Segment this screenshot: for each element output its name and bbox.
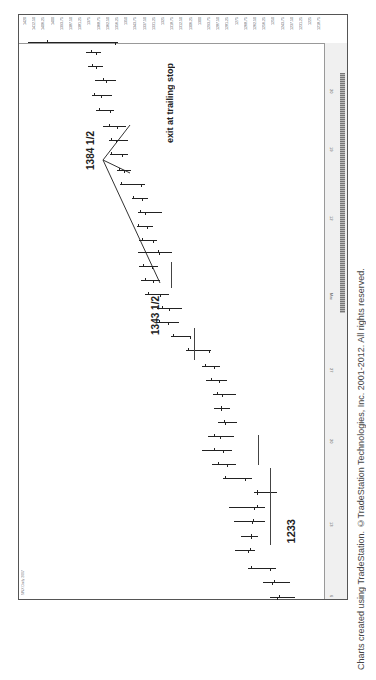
open-tick xyxy=(250,548,251,551)
price-tick-label: 1256.25 xyxy=(262,17,266,30)
chart-annotation: 1233 xyxy=(285,519,297,543)
date-axis: 6132027Mar121920 xyxy=(324,43,347,599)
close-tick xyxy=(153,280,154,283)
credit-line: Charts created using TradeStation. ©Trad… xyxy=(356,210,366,670)
open-tick xyxy=(225,476,226,479)
ohlc-bar xyxy=(218,422,237,423)
close-tick xyxy=(117,126,118,129)
close-tick xyxy=(227,464,228,467)
date-tick-label: 13 xyxy=(329,522,334,526)
close-tick xyxy=(116,140,117,143)
reference-line xyxy=(258,435,259,465)
close-tick xyxy=(220,436,221,439)
open-tick xyxy=(111,138,112,141)
close-tick xyxy=(277,597,278,600)
date-tick-label: 19 xyxy=(329,147,334,151)
open-tick xyxy=(47,40,48,43)
price-tick-label: 1343.75 xyxy=(133,17,137,30)
open-tick xyxy=(257,505,258,508)
ohlc-bar xyxy=(186,350,211,351)
ohlc-bar xyxy=(263,582,290,583)
close-tick xyxy=(96,66,97,69)
close-tick xyxy=(153,240,154,243)
ohlc-bar xyxy=(229,507,265,508)
ohlc-bar xyxy=(86,52,101,53)
close-tick xyxy=(122,154,123,157)
close-tick xyxy=(223,450,224,453)
close-tick xyxy=(124,170,125,173)
close-tick xyxy=(106,80,107,83)
open-tick xyxy=(121,182,122,185)
close-tick xyxy=(254,507,255,510)
close-tick xyxy=(145,212,146,215)
close-tick xyxy=(222,394,223,397)
close-tick xyxy=(209,350,210,353)
price-tick-label: 1375 xyxy=(87,17,91,25)
ohlc-bar xyxy=(202,450,232,451)
price-tick-label: 1337.50 xyxy=(143,17,147,30)
close-tick xyxy=(252,521,253,524)
open-tick xyxy=(279,595,280,598)
price-chart: 14201412.501406.2514001393.751387.501381… xyxy=(18,14,348,600)
ohlc-bar xyxy=(138,252,172,253)
close-tick xyxy=(141,184,142,187)
price-tick-label: 1350 xyxy=(124,17,128,25)
price-tick-label: 1406.25 xyxy=(41,17,45,30)
close-tick xyxy=(251,536,252,539)
chart-annotation: 1384 1/2 xyxy=(85,131,96,170)
open-tick xyxy=(109,124,110,127)
date-tick-label: Mar xyxy=(329,293,334,300)
ohlc-bar xyxy=(138,212,162,213)
price-tick-label: 1306.25 xyxy=(189,17,193,30)
price-tick-label: 1218.75 xyxy=(317,17,321,30)
ohlc-bar xyxy=(235,550,255,551)
open-tick xyxy=(133,196,134,199)
ohlc-bar xyxy=(270,597,295,598)
open-tick xyxy=(218,462,219,465)
open-tick xyxy=(111,152,112,155)
ohlc-bar xyxy=(103,126,126,127)
reference-line xyxy=(194,328,195,360)
ohlc-bar xyxy=(223,478,252,479)
open-tick xyxy=(119,168,120,171)
price-tick-label: 1268.75 xyxy=(244,17,248,30)
open-tick xyxy=(92,64,93,67)
ohlc-bar xyxy=(206,380,227,381)
price-tick-label: 1420 xyxy=(23,17,27,25)
ohlc-bar xyxy=(110,154,128,155)
open-tick xyxy=(91,50,92,53)
price-axis: 14201412.501406.2514001393.751387.501381… xyxy=(19,15,347,44)
close-tick xyxy=(214,366,215,369)
open-tick xyxy=(142,238,143,241)
price-tick-label: 1287.50 xyxy=(216,17,220,30)
chart-copyright-strip xyxy=(340,73,345,313)
open-tick xyxy=(143,264,144,267)
close-tick xyxy=(96,52,97,55)
open-tick xyxy=(140,210,141,213)
ohlc-bar xyxy=(137,226,153,227)
close-tick xyxy=(257,492,258,495)
price-tick-label: 1281.25 xyxy=(225,17,229,30)
close-tick xyxy=(248,550,249,553)
price-tick-label: 1381.25 xyxy=(78,17,82,30)
price-tick-label: 1362.50 xyxy=(106,17,110,30)
close-tick xyxy=(190,336,191,339)
ohlc-bar xyxy=(141,280,160,281)
date-tick-label: 20 xyxy=(329,439,334,443)
close-tick xyxy=(272,582,273,585)
open-tick xyxy=(217,392,218,395)
close-tick xyxy=(219,380,220,383)
price-tick-label: 1225 xyxy=(308,17,312,25)
close-tick xyxy=(142,198,143,201)
ohlc-bar xyxy=(139,266,158,267)
open-tick xyxy=(188,348,189,351)
close-tick xyxy=(245,478,246,481)
price-tick-label: 1387.50 xyxy=(69,17,73,30)
open-tick xyxy=(214,448,215,451)
close-tick xyxy=(168,322,169,325)
price-tick-label: 1400 xyxy=(51,17,55,25)
chart-header: $INX Daily 2007 xyxy=(21,570,25,595)
open-tick xyxy=(173,334,174,337)
date-tick-label: 27 xyxy=(329,368,334,372)
close-tick xyxy=(221,408,222,411)
